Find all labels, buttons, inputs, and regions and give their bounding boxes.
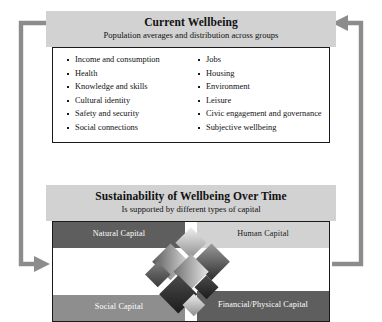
dimension-item: Health	[66, 67, 191, 81]
dimension-item: Safety and security	[66, 108, 191, 122]
dimension-item: Subjective wellbeing	[197, 121, 329, 135]
capital-label: Social Capital	[95, 302, 143, 312]
capitals-container: Natural Capital Human Capital Social Cap…	[52, 221, 330, 322]
current-wellbeing-title: Current Wellbeing	[50, 16, 332, 29]
sustainability-subtitle: Is supported by different types of capit…	[50, 204, 332, 214]
dimension-item: Social connections	[66, 121, 191, 135]
sustainability-block: Sustainability of Wellbeing Over Time Is…	[46, 185, 336, 322]
dimension-item: Jobs	[197, 54, 329, 68]
current-wellbeing-subtitle: Population averages and distribution acr…	[50, 30, 332, 40]
dimension-item: Knowledge and skills	[66, 81, 191, 95]
capital-label: Human Capital	[237, 229, 289, 239]
connector-sustainability-to-wellbeing	[332, 15, 361, 264]
current-wellbeing-block: Current Wellbeing Population averages an…	[46, 11, 336, 143]
dimension-item: Income and consumption	[66, 54, 191, 68]
dimension-item: Environment	[197, 81, 329, 95]
dimension-item: Cultural identity	[66, 94, 191, 108]
dimension-column-left: Income and consumption Health Knowledge …	[53, 54, 191, 135]
dimension-item: Housing	[197, 67, 329, 81]
dimension-column-right: Jobs Housing Environment Leisure Civic e…	[191, 54, 329, 135]
dimension-item: Civic engagement and governance	[197, 108, 329, 122]
capital-pinwheel-icon	[139, 221, 243, 322]
capital-label: Natural Capital	[93, 229, 146, 239]
current-wellbeing-dimensions: Income and consumption Health Knowledge …	[52, 47, 330, 143]
current-wellbeing-header: Current Wellbeing Population averages an…	[46, 11, 336, 47]
sustainability-header: Sustainability of Wellbeing Over Time Is…	[46, 185, 336, 221]
sustainability-title: Sustainability of Wellbeing Over Time	[50, 190, 332, 203]
dimension-item: Leisure	[197, 94, 329, 108]
